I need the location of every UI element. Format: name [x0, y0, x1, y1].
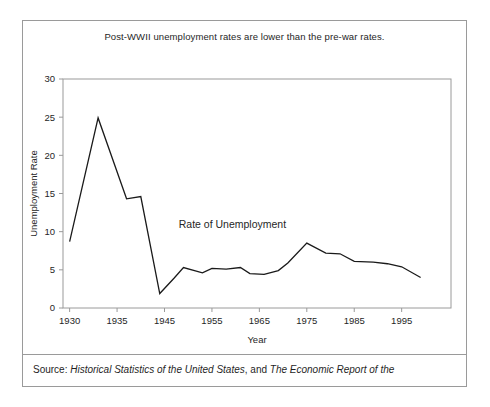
plot-area-wrapper: 051015202530 193019351945195519651975198… [23, 21, 468, 351]
y-tick-label: 30 [44, 73, 55, 84]
x-tick-label: 1985 [344, 315, 365, 326]
source-conjunction: , and [245, 364, 270, 375]
x-tick-label: 1930 [59, 315, 80, 326]
source-title-secondary: The Economic Report of the [270, 364, 395, 375]
y-axis-ticks: 051015202530 [44, 73, 63, 313]
y-tick-label: 0 [50, 302, 55, 313]
y-tick-label: 20 [44, 150, 55, 161]
unemployment-line-chart: 051015202530 193019351945195519651975198… [23, 21, 468, 351]
x-tick-label: 1955 [201, 315, 222, 326]
y-tick-label: 25 [44, 112, 55, 123]
source-citation: Source: Historical Statistics of the Uni… [33, 364, 394, 375]
y-tick-label: 10 [44, 226, 55, 237]
x-axis-label: Year [247, 334, 266, 345]
series-annotation-label: Rate of Unemployment [179, 218, 286, 230]
source-title-primary: Historical Statistics of the United Stat… [70, 364, 245, 375]
source-prefix: Source: [33, 364, 70, 375]
x-tick-label: 1935 [107, 315, 128, 326]
y-tick-label: 15 [44, 188, 55, 199]
figure-frame: Post-WWII unemployment rates are lower t… [22, 20, 467, 387]
x-tick-label: 1995 [391, 315, 412, 326]
y-axis-label: Unemployment Rate [28, 150, 39, 237]
data-line [70, 118, 421, 294]
data-line-series [70, 118, 421, 294]
source-divider [23, 354, 466, 355]
x-tick-label: 1975 [296, 315, 317, 326]
x-tick-label: 1965 [249, 315, 270, 326]
x-tick-label: 1945 [154, 315, 175, 326]
y-tick-label: 5 [50, 264, 55, 275]
x-axis-ticks: 19301935194519551965197519851995 [59, 308, 412, 326]
